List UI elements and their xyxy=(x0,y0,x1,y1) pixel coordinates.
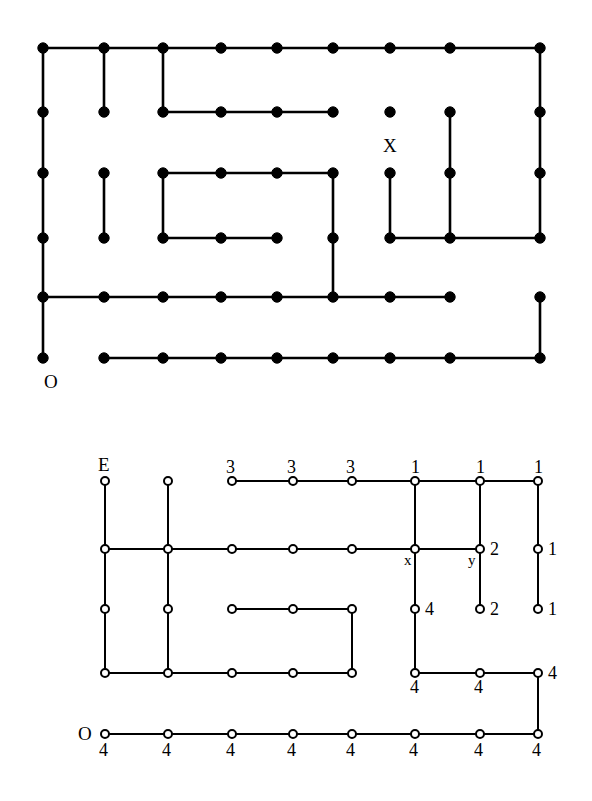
graph-node[interactable] xyxy=(411,477,419,485)
graph-node[interactable] xyxy=(476,545,484,553)
graph-node[interactable] xyxy=(101,545,109,553)
label-1-c8r3: 1 xyxy=(548,600,557,618)
graph-node[interactable] xyxy=(411,545,419,553)
graph-node[interactable] xyxy=(534,669,542,677)
graph-node[interactable] xyxy=(411,730,419,738)
graph-node[interactable] xyxy=(348,730,356,738)
graph-node[interactable] xyxy=(534,730,542,738)
label-4-c3r5: 4 xyxy=(226,741,235,759)
graph-node[interactable] xyxy=(289,669,297,677)
graph-node[interactable] xyxy=(534,545,542,553)
graph-node[interactable] xyxy=(164,605,172,613)
graph-node[interactable] xyxy=(289,477,297,485)
graph-node[interactable] xyxy=(101,730,109,738)
label-4-c4r5: 4 xyxy=(287,741,296,759)
label-4-c6r3: 4 xyxy=(425,600,434,618)
label-3-c5r1: 3 xyxy=(346,458,355,476)
graph-node[interactable] xyxy=(228,669,236,677)
label-1-c7r1: 1 xyxy=(476,458,485,476)
graph-node[interactable] xyxy=(476,669,484,677)
label-y-c7r2: y xyxy=(468,553,476,568)
graph-node[interactable] xyxy=(348,669,356,677)
label-4-c5r5: 4 xyxy=(346,741,355,759)
graph-node[interactable] xyxy=(101,477,109,485)
graph-node[interactable] xyxy=(348,605,356,613)
graph-node[interactable] xyxy=(289,605,297,613)
graph-node[interactable] xyxy=(101,605,109,613)
label-1-c8r1: 1 xyxy=(534,458,543,476)
label-4-c7r5: 4 xyxy=(474,741,483,759)
graph-node[interactable] xyxy=(164,477,172,485)
label-4-c1r5: 4 xyxy=(99,741,108,759)
graph-node[interactable] xyxy=(476,477,484,485)
graph-node[interactable] xyxy=(164,669,172,677)
graph-node[interactable] xyxy=(164,545,172,553)
label-3-c4r1: 3 xyxy=(287,458,296,476)
graph-node[interactable] xyxy=(228,730,236,738)
graph-node[interactable] xyxy=(476,605,484,613)
label-2-c7r3: 2 xyxy=(490,600,499,618)
graph-node[interactable] xyxy=(289,545,297,553)
label-4-c6r5: 4 xyxy=(409,741,418,759)
graph-node[interactable] xyxy=(228,605,236,613)
graph-node[interactable] xyxy=(348,545,356,553)
label-4-c8r4: 4 xyxy=(548,664,557,682)
label-1-c8r2: 1 xyxy=(548,540,557,558)
label-O: O xyxy=(44,372,58,391)
graph-node[interactable] xyxy=(228,545,236,553)
graph-node[interactable] xyxy=(476,730,484,738)
bottom-maze-figure xyxy=(0,0,592,801)
label-E: E xyxy=(98,455,110,474)
graph-node[interactable] xyxy=(411,669,419,677)
label-4-c2r5: 4 xyxy=(162,741,171,759)
label-2-c7r2: 2 xyxy=(490,540,499,558)
graph-node[interactable] xyxy=(101,669,109,677)
label-O: O xyxy=(78,724,92,743)
graph-node[interactable] xyxy=(534,477,542,485)
label-X: X xyxy=(383,136,397,155)
graph-node[interactable] xyxy=(348,477,356,485)
label-4-c6r4: 4 xyxy=(410,678,419,696)
label-x-c6r2: x xyxy=(404,553,412,568)
graph-node[interactable] xyxy=(164,730,172,738)
graph-node[interactable] xyxy=(534,605,542,613)
label-4-c7r4: 4 xyxy=(474,678,483,696)
graph-node[interactable] xyxy=(228,477,236,485)
label-1-c6r1: 1 xyxy=(411,458,420,476)
figure-canvas: XO E333111xy21421444O44444444 xyxy=(0,0,592,801)
graph-node[interactable] xyxy=(411,605,419,613)
label-3-c3r1: 3 xyxy=(226,458,235,476)
graph-node[interactable] xyxy=(289,730,297,738)
label-4-c8r5: 4 xyxy=(532,741,541,759)
